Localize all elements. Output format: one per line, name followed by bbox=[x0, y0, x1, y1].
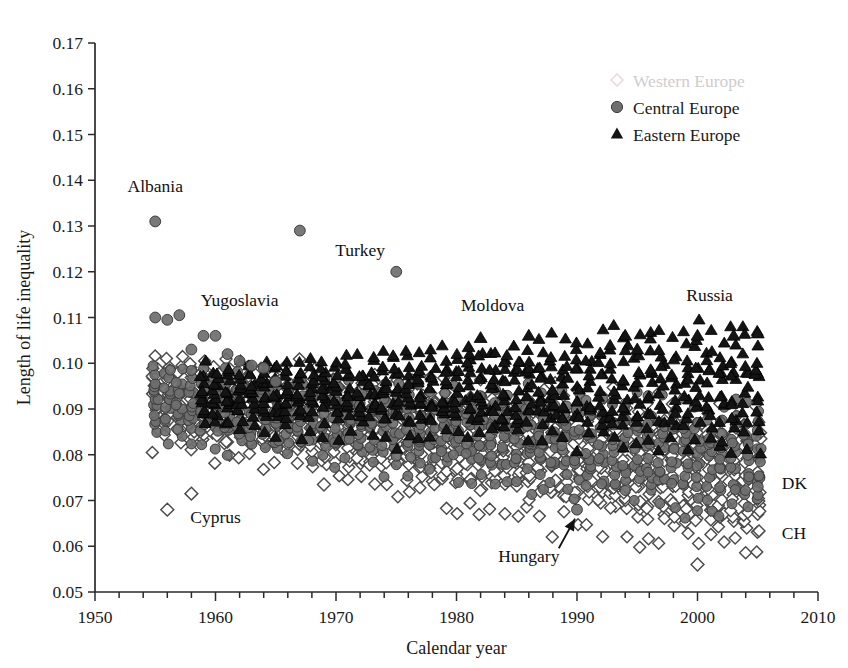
data-point bbox=[186, 344, 197, 355]
data-point bbox=[715, 454, 725, 464]
data-point bbox=[692, 461, 702, 471]
x-axis-tick-label: 1970 bbox=[319, 607, 354, 627]
data-point bbox=[546, 458, 556, 468]
data-point bbox=[570, 456, 580, 466]
data-point bbox=[497, 442, 507, 452]
data-point bbox=[173, 424, 183, 434]
data-point bbox=[669, 444, 679, 454]
y-axis-tick-label: 0.16 bbox=[52, 79, 83, 99]
x-axis-tick-label: 1960 bbox=[198, 607, 233, 627]
data-point bbox=[755, 457, 765, 467]
data-point bbox=[270, 376, 281, 387]
data-point bbox=[667, 457, 677, 467]
annotation-label: CH bbox=[782, 523, 807, 543]
data-point bbox=[234, 356, 245, 367]
data-point bbox=[476, 470, 486, 480]
data-point bbox=[171, 377, 181, 387]
data-point bbox=[440, 388, 450, 398]
data-point bbox=[150, 379, 160, 389]
data-point bbox=[174, 389, 184, 399]
data-point bbox=[186, 439, 196, 449]
annotation-label: Albania bbox=[128, 176, 184, 196]
data-point bbox=[148, 361, 158, 371]
data-point bbox=[448, 450, 458, 460]
data-point bbox=[403, 471, 413, 481]
data-point bbox=[667, 478, 677, 488]
data-point bbox=[563, 484, 573, 494]
data-point bbox=[294, 225, 305, 236]
annotation-label: Cyprus bbox=[190, 507, 241, 527]
x-axis-tick-label: 2000 bbox=[680, 607, 715, 627]
data-point bbox=[680, 513, 690, 523]
annotation-label: Turkey bbox=[335, 240, 385, 260]
data-point bbox=[454, 477, 464, 487]
data-point bbox=[511, 454, 521, 464]
data-point bbox=[197, 440, 207, 450]
y-axis-title: Length of life inequality bbox=[14, 230, 34, 405]
data-point bbox=[487, 451, 497, 461]
annotation-label: Yugoslavia bbox=[201, 290, 279, 310]
data-point bbox=[594, 453, 604, 463]
data-point bbox=[467, 479, 477, 489]
scatter-plot: 0.050.060.070.080.090.100.110.120.130.14… bbox=[0, 0, 848, 668]
data-point bbox=[163, 439, 173, 449]
legend-label: Central Europe bbox=[633, 98, 740, 118]
legend-label: Eastern Europe bbox=[633, 125, 741, 145]
data-point bbox=[150, 216, 161, 227]
data-point bbox=[283, 449, 293, 459]
data-point bbox=[683, 459, 693, 469]
data-point bbox=[632, 455, 642, 465]
data-point bbox=[730, 485, 740, 495]
data-point bbox=[535, 470, 545, 480]
y-axis-tick-label: 0.10 bbox=[52, 353, 83, 373]
data-point bbox=[474, 453, 484, 463]
data-point bbox=[671, 503, 681, 513]
data-point bbox=[629, 495, 639, 505]
data-point bbox=[340, 453, 350, 463]
data-point bbox=[692, 506, 702, 516]
figure: B. Females 0.050.060.070.080.090.100.110… bbox=[0, 0, 848, 668]
data-point bbox=[222, 450, 232, 460]
data-point bbox=[486, 440, 496, 450]
data-point bbox=[159, 383, 169, 393]
data-point bbox=[581, 480, 591, 490]
data-point bbox=[391, 266, 402, 277]
data-point bbox=[415, 458, 425, 468]
data-point bbox=[330, 462, 340, 472]
data-point bbox=[436, 447, 446, 457]
annotation-label: Hungary bbox=[498, 546, 559, 566]
data-point bbox=[160, 426, 170, 436]
data-point bbox=[562, 470, 572, 480]
data-point bbox=[318, 450, 328, 460]
y-axis-tick-label: 0.11 bbox=[53, 308, 83, 328]
data-point bbox=[171, 400, 181, 410]
data-point bbox=[691, 473, 701, 483]
y-axis-tick-label: 0.14 bbox=[52, 170, 83, 190]
data-point bbox=[490, 479, 500, 489]
x-axis-tick-label: 1950 bbox=[78, 607, 113, 627]
data-point bbox=[702, 495, 712, 505]
legend-marker-filled-circle bbox=[611, 101, 622, 112]
data-point bbox=[260, 443, 270, 453]
y-axis-tick-label: 0.17 bbox=[52, 33, 83, 53]
data-point bbox=[693, 493, 703, 503]
data-point bbox=[545, 478, 555, 488]
data-point bbox=[527, 489, 537, 499]
data-point bbox=[643, 467, 653, 477]
data-point bbox=[258, 362, 269, 373]
annotation-label: Russia bbox=[686, 285, 733, 305]
data-point bbox=[692, 482, 702, 492]
data-point bbox=[165, 365, 175, 375]
data-point bbox=[655, 498, 665, 508]
data-point bbox=[210, 444, 220, 454]
data-point bbox=[512, 477, 522, 487]
y-axis-tick-label: 0.13 bbox=[52, 216, 83, 236]
y-axis-tick-label: 0.12 bbox=[52, 262, 83, 282]
annotation-label: DK bbox=[782, 473, 808, 493]
data-point bbox=[581, 449, 591, 459]
x-axis-tick-label: 1990 bbox=[560, 607, 595, 627]
x-axis-tick-label: 2010 bbox=[801, 607, 836, 627]
annotation-label: Moldova bbox=[461, 295, 524, 315]
data-point bbox=[620, 486, 630, 496]
data-point bbox=[715, 483, 725, 493]
